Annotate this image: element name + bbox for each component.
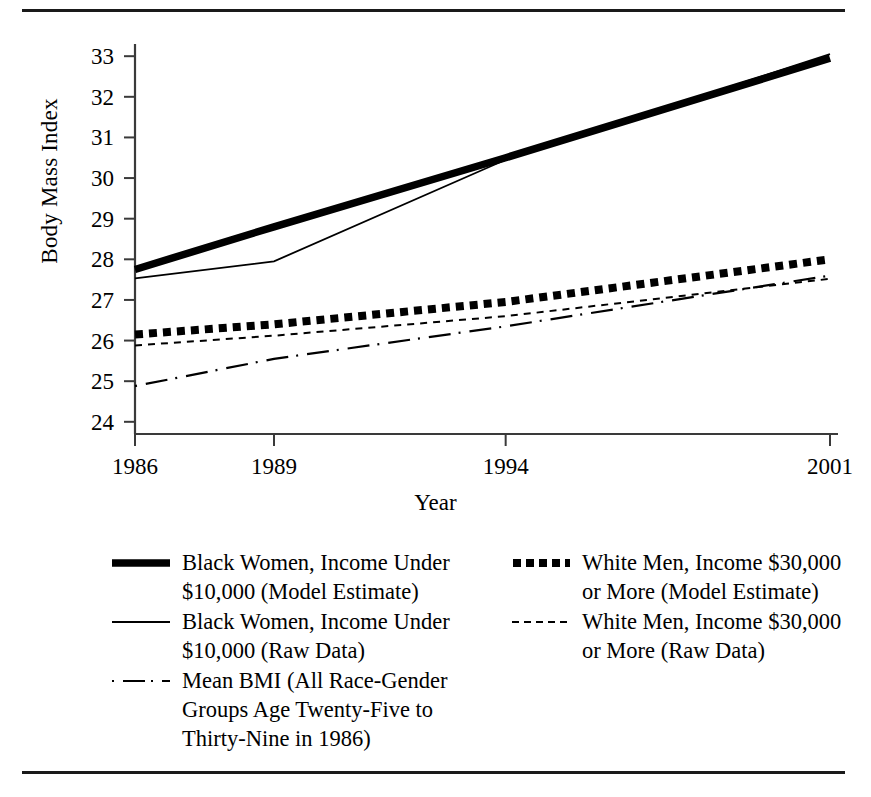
thin-dashed-line-swatch (510, 607, 572, 636)
legend-item-label: Mean BMI (All Race-Gender Groups Age Twe… (182, 666, 448, 753)
legend-column-right: White Men, Income $30,000 or More (Model… (510, 548, 855, 754)
data-series-line (135, 259, 830, 334)
bottom-horizontal-rule (22, 771, 845, 774)
y-tick-label: 24 (91, 410, 115, 435)
legend-item-label: Black Women, Income Under $10,000 (Model… (182, 548, 450, 606)
legend-item: Black Women, Income Under $10,000 (Model… (110, 548, 488, 606)
x-axis-title: Year (0, 490, 871, 516)
y-tick-label: 26 (91, 329, 114, 354)
data-series-line (135, 58, 830, 269)
thick-dotted-line-swatch (510, 548, 572, 577)
x-tick-label: 1994 (483, 454, 530, 479)
x-tick-group: 1986198919942001 (112, 434, 853, 479)
thin-solid-line-swatch (110, 607, 172, 636)
y-tick-label: 29 (91, 207, 114, 232)
y-tick-label: 32 (91, 85, 114, 110)
y-tick-label: 27 (91, 288, 114, 313)
y-tick-label: 33 (91, 44, 114, 69)
legend-item-label: White Men, Income $30,000 or More (Raw D… (582, 607, 841, 665)
plot-area: 24252627282930313233 1986198919942001 Bo… (0, 18, 871, 488)
top-horizontal-rule (22, 9, 845, 12)
chart-legend: Black Women, Income Under $10,000 (Model… (110, 548, 855, 754)
y-tick-label: 25 (91, 369, 114, 394)
legend-item-label: White Men, Income $30,000 or More (Model… (582, 548, 841, 606)
legend-item: White Men, Income $30,000 or More (Raw D… (510, 607, 855, 665)
legend-column-left: Black Women, Income Under $10,000 (Model… (110, 548, 488, 754)
x-tick-label: 1989 (251, 454, 297, 479)
data-series-line (135, 279, 830, 346)
y-tick-group: 24252627282930313233 (91, 44, 135, 435)
legend-item: Black Women, Income Under $10,000 (Raw D… (110, 607, 488, 665)
thick-solid-line-swatch (110, 548, 172, 577)
legend-item: White Men, Income $30,000 or More (Model… (510, 548, 855, 606)
legend-item: Mean BMI (All Race-Gender Groups Age Twe… (110, 666, 488, 753)
line-chart-svg: 24252627282930313233 1986198919942001 (0, 18, 871, 488)
data-series-group (135, 54, 830, 386)
y-tick-label: 28 (91, 247, 114, 272)
legend-item-label: Black Women, Income Under $10,000 (Raw D… (182, 607, 450, 665)
dash-dot-line-swatch (110, 666, 172, 695)
y-tick-label: 30 (91, 166, 114, 191)
y-axis-title: Body Mass Index (37, 71, 63, 291)
x-tick-label: 1986 (112, 454, 158, 479)
y-tick-label: 31 (91, 125, 114, 150)
x-tick-label: 2001 (807, 454, 853, 479)
figure-bmi-by-income-group: 24252627282930313233 1986198919942001 Bo… (0, 0, 871, 797)
